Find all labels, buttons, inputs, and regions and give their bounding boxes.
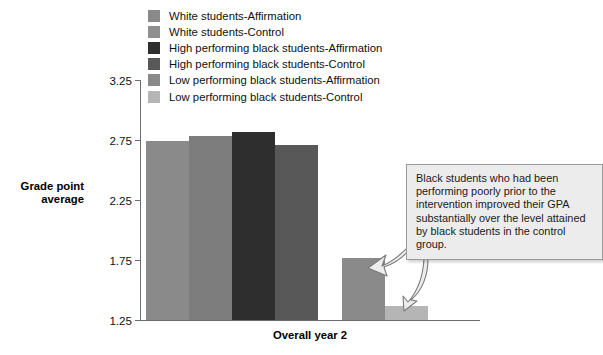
legend-swatch-icon	[148, 58, 160, 70]
legend-swatch-icon	[148, 42, 160, 54]
bar-high-black-affirmation	[232, 132, 275, 320]
legend-item: High performing black students-Control	[148, 56, 382, 72]
y-tick-label-group: 3.25	[92, 74, 132, 86]
y-tick-label-group: 2.25	[92, 194, 132, 206]
bar-white-control	[189, 136, 232, 320]
legend-item: White students-Control	[148, 24, 382, 40]
x-axis-line	[140, 320, 480, 321]
legend-item-label: High performing black students-Control	[169, 58, 365, 70]
y-tick-label: 1.25	[98, 314, 132, 327]
y-axis-title-line1: Grade point	[21, 180, 84, 192]
y-tick-label: 2.75	[98, 134, 132, 147]
x-axis-title: Overall year 2	[140, 329, 480, 341]
callout-arrow-lower-icon	[398, 256, 432, 316]
legend-item: High performing black students-Affirmati…	[148, 40, 382, 56]
legend-swatch-icon	[148, 26, 160, 38]
y-tick-label-group: 1.25	[92, 314, 132, 326]
callout-text: Black students who had been performing p…	[416, 172, 594, 251]
bar-white-affirmation	[146, 141, 189, 320]
y-axis-title: Grade point average	[4, 180, 84, 205]
y-tick-label-group: 2.75	[92, 134, 132, 146]
y-axis-title-line2: average	[41, 193, 84, 205]
y-tick-label: 2.25	[98, 194, 132, 207]
legend-swatch-icon	[148, 10, 160, 22]
bar-high-black-control	[275, 145, 318, 320]
y-tick-label: 1.75	[98, 254, 132, 267]
y-tick-label-group: 1.75	[92, 254, 132, 266]
y-tick-label: 3.25	[98, 74, 132, 87]
callout-box: Black students who had been performing p…	[406, 164, 603, 260]
legend-item-label: High performing black students-Affirmati…	[169, 42, 382, 54]
legend-item-label: White students-Affirmation	[169, 10, 301, 22]
legend-item-label: White students-Control	[169, 26, 284, 38]
legend-item: White students-Affirmation	[148, 8, 382, 24]
